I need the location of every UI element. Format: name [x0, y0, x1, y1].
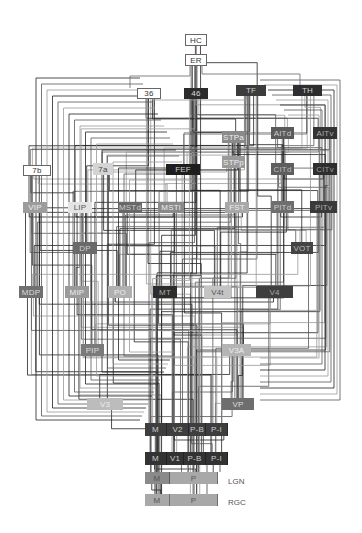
area-label: ER	[190, 56, 202, 65]
area-node-lgn-p: P	[170, 472, 218, 484]
area-node-dp: DP	[73, 242, 97, 254]
area-node-vot: VOT	[291, 242, 313, 254]
area-label: M	[152, 454, 159, 463]
area-node-v1-p-b: P-B	[184, 452, 206, 465]
area-node-er: ER	[185, 54, 207, 66]
area-label: V3	[100, 400, 110, 409]
area-label: DP	[79, 244, 91, 253]
area-label: 46	[191, 89, 200, 98]
area-label: VOT	[293, 244, 310, 253]
area-node-v3a: V3A	[222, 344, 251, 356]
area-node-vip: VIP	[23, 202, 47, 213]
area-label: MSTd	[119, 203, 141, 212]
area-label: STPa	[223, 133, 244, 142]
area-label: MIP	[70, 288, 85, 297]
area-label: VIP	[28, 203, 42, 212]
area-label: V4t	[211, 288, 224, 297]
area-label: P	[191, 474, 197, 483]
area-label: P-I	[211, 454, 222, 463]
area-label: TH	[302, 86, 313, 95]
area-node-aitd: AITd	[271, 127, 294, 139]
area-node-v2-p-b: P-B	[189, 423, 206, 436]
area-node-pip: PIP	[81, 344, 104, 356]
area-node-aitv: AITv	[313, 127, 337, 139]
area-node-fst: FST	[225, 202, 249, 213]
area-label: P-B	[188, 454, 202, 463]
area-label: VP	[232, 400, 243, 409]
area-node-v2-m: M	[145, 423, 167, 436]
area-label: MDP	[22, 288, 40, 297]
area-node-th: TH	[293, 85, 322, 96]
area-node-pitd: PITd	[271, 201, 294, 213]
area-node-7b: 7b	[23, 165, 51, 176]
area-label: V3A	[229, 346, 245, 355]
area-node-v4: V4	[256, 286, 293, 298]
area-node-lip: LIP	[68, 202, 92, 213]
area-node-vp: VP	[222, 398, 254, 410]
area-node-stpp: STPp	[222, 156, 245, 168]
area-node-lgn-m: M	[145, 472, 170, 484]
area-node-v2-p-i: P-I	[206, 423, 228, 436]
area-label: AITd	[274, 129, 292, 138]
area-node-citd: CITd	[271, 163, 294, 175]
area-node-46: 46	[184, 88, 208, 99]
layer-label-rgc: RGC	[228, 498, 246, 507]
area-label: P-B	[190, 425, 204, 434]
area-node-pitv: PITv	[310, 201, 337, 213]
area-label: V1	[170, 454, 180, 463]
area-node-citv: CITv	[313, 163, 337, 175]
area-node-mstd: MSTd	[118, 202, 142, 213]
area-node-v1-p-i: P-I	[206, 452, 228, 465]
area-label: PIP	[86, 346, 100, 355]
area-label: AITv	[316, 129, 333, 138]
area-label: HC	[190, 36, 202, 45]
area-label: PO	[114, 288, 126, 297]
layer-label-lgn: LGN	[228, 477, 244, 486]
area-node-mt: MT	[153, 286, 177, 298]
area-node-po: PO	[108, 286, 132, 298]
area-label: M	[154, 474, 161, 483]
area-node-v2-v2: V2	[167, 423, 189, 436]
area-label: FST	[229, 203, 245, 212]
area-label: M	[154, 496, 161, 505]
area-node-v1-m: M	[145, 452, 167, 465]
area-label: P	[191, 496, 197, 505]
area-label: CITv	[316, 165, 334, 174]
area-node-hc: HC	[185, 34, 207, 46]
area-node-v1-v1: V1	[167, 452, 184, 465]
area-node-7a: 7a	[93, 163, 113, 175]
area-label: 7b	[32, 166, 41, 175]
area-label: CITd	[273, 165, 291, 174]
area-label: P-I	[211, 425, 222, 434]
area-label: FEF	[175, 165, 191, 174]
area-label: PITv	[315, 203, 332, 212]
area-node-rgc-m: M	[145, 494, 170, 506]
area-node-mdp: MDP	[19, 286, 43, 298]
area-label: STPp	[223, 158, 244, 167]
area-node-tf: TF	[236, 85, 266, 96]
area-label: PITd	[274, 203, 292, 212]
area-label: LIP	[74, 203, 87, 212]
area-label: MSTl	[161, 203, 180, 212]
area-label: M	[152, 425, 159, 434]
area-node-mstl: MSTl	[158, 202, 184, 213]
area-node-rgc-p: P	[170, 494, 218, 506]
area-node-v3: V3	[87, 398, 123, 410]
area-node-stpa: STPa	[222, 131, 245, 143]
area-node-mip: MIP	[65, 286, 89, 298]
area-label: TF	[246, 86, 256, 95]
area-node-fef: FEF	[166, 164, 200, 175]
area-label: V4	[269, 288, 279, 297]
area-label: 36	[144, 89, 153, 98]
area-label: MT	[159, 288, 171, 297]
area-label: 7a	[98, 165, 107, 174]
area-label: V2	[172, 425, 182, 434]
area-node-36: 36	[137, 88, 161, 99]
area-node-v4t: V4t	[204, 286, 231, 298]
